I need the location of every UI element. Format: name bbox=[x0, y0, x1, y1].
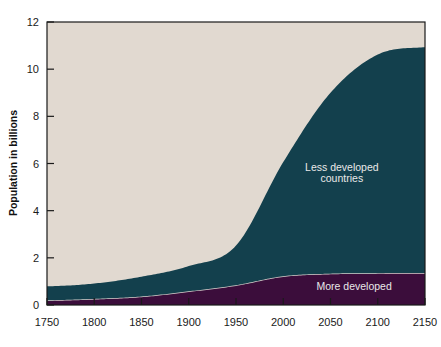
x-tick-label: 2050 bbox=[318, 316, 342, 328]
y-tick-label: 0 bbox=[33, 299, 39, 311]
y-tick-label: 4 bbox=[33, 205, 39, 217]
x-axis-tick-labels: 175018001850190019502000205021002150 bbox=[35, 316, 437, 328]
y-axis-tick-labels: 024681012 bbox=[27, 16, 39, 311]
x-tick-label: 1900 bbox=[177, 316, 201, 328]
series-annotation: Less developed bbox=[305, 161, 379, 173]
x-tick-label: 2000 bbox=[271, 316, 295, 328]
y-tick-label: 12 bbox=[27, 16, 39, 28]
y-axis-title: Population in billions bbox=[7, 110, 19, 216]
chart-figure: 024681012 175018001850190019502000205021… bbox=[0, 0, 441, 347]
x-tick-label: 1800 bbox=[82, 316, 106, 328]
series-annotation: countries bbox=[321, 172, 364, 184]
x-tick-label: 2100 bbox=[366, 316, 390, 328]
x-tick-label: 1750 bbox=[35, 316, 59, 328]
y-tick-label: 10 bbox=[27, 63, 39, 75]
y-tick-label: 2 bbox=[33, 252, 39, 264]
x-tick-label: 2150 bbox=[413, 316, 437, 328]
x-tick-label: 1850 bbox=[129, 316, 153, 328]
population-area-chart: 024681012 175018001850190019502000205021… bbox=[0, 0, 441, 347]
y-tick-label: 6 bbox=[33, 158, 39, 170]
series-annotation: More developed bbox=[316, 280, 391, 292]
y-tick-label: 8 bbox=[33, 110, 39, 122]
x-tick-label: 1950 bbox=[224, 316, 248, 328]
